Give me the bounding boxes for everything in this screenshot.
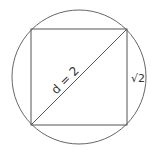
- diagonal-label: d = 2: [49, 64, 82, 97]
- diagonal-line: [31, 29, 127, 125]
- side-label: √2: [131, 72, 145, 85]
- inscribed-square-diagram: d = 2 √2: [0, 0, 155, 157]
